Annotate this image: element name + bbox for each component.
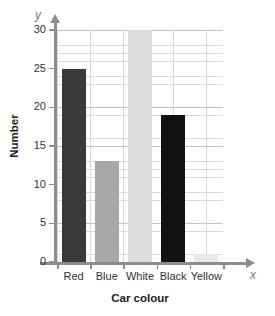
y-axis-title: Number — [8, 96, 20, 176]
bar-red — [62, 69, 86, 262]
y-tick-label-0: 0 — [18, 256, 46, 267]
y-tick-25 — [49, 68, 57, 70]
y-axis-arrow-icon — [50, 14, 60, 23]
x-label-red: Red — [57, 270, 90, 282]
x-axis-arrow-icon — [246, 258, 255, 268]
y-tick-5 — [49, 223, 57, 225]
y-tick-10 — [49, 184, 57, 186]
x-label-yellow: Yellow — [190, 270, 223, 282]
x-tick-1 — [90, 262, 92, 269]
y-tick-label-30: 30 — [18, 24, 46, 35]
x-tick-4 — [190, 262, 192, 269]
bar-yellow — [194, 254, 218, 262]
x-label-white: White — [123, 270, 156, 282]
x-tick-0 — [57, 262, 59, 269]
x-axis-title: Car colour — [57, 292, 223, 304]
x-label-blue: Blue — [90, 270, 123, 282]
y-tick-label-25: 25 — [18, 63, 46, 74]
x-tick-2 — [123, 262, 125, 269]
bar-blue — [95, 161, 119, 262]
y-tick-30 — [49, 29, 57, 31]
y-tick-label-10: 10 — [18, 179, 46, 190]
y-tick-0 — [49, 261, 57, 263]
y-tick-15 — [49, 145, 57, 147]
y-tick-20 — [49, 107, 57, 109]
y-tick-label-5: 5 — [18, 217, 46, 228]
bar-black — [161, 115, 185, 262]
x-axis-line — [40, 262, 248, 265]
x-tick-3 — [157, 262, 159, 269]
bars-container — [57, 30, 223, 262]
x-axis-letter: x — [250, 268, 256, 282]
bar-chart: y x 051015202530 RedBlueWhiteBlackYellow… — [0, 0, 275, 316]
x-axis-category-labels: RedBlueWhiteBlackYellow — [57, 270, 223, 282]
x-tick-5 — [223, 262, 225, 269]
y-tick-label-20: 20 — [18, 101, 46, 112]
y-axis-line — [54, 22, 57, 265]
x-label-black: Black — [157, 270, 190, 282]
plot-area — [57, 30, 223, 262]
bar-white — [128, 30, 152, 262]
y-tick-label-15: 15 — [18, 140, 46, 151]
